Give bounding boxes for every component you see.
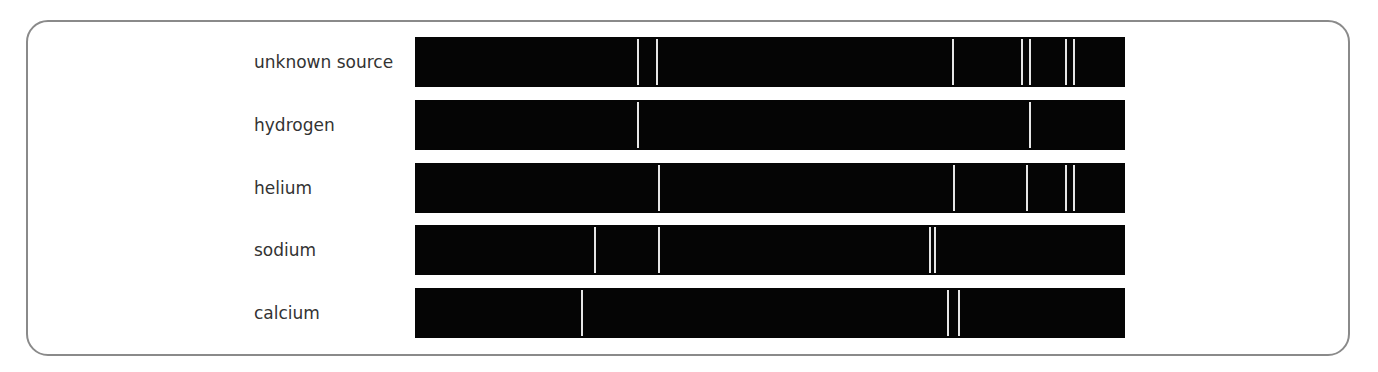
- emission-line: [1029, 102, 1031, 148]
- spectrum-bar: [415, 288, 1125, 338]
- spectrum-row-hydrogen: hydrogen: [0, 100, 1378, 150]
- emission-line: [1026, 165, 1028, 211]
- spectrum-label: unknown source: [254, 37, 393, 87]
- emission-line: [1029, 39, 1031, 85]
- emission-line: [1021, 39, 1023, 85]
- spectrum-label: helium: [254, 163, 312, 213]
- emission-line: [581, 290, 583, 336]
- emission-line: [958, 290, 960, 336]
- spectrum-row-unknown-source: unknown source: [0, 37, 1378, 87]
- emission-line: [1073, 39, 1075, 85]
- spectrum-label: calcium: [254, 288, 320, 338]
- spectrum-bar: [415, 100, 1125, 150]
- emission-line: [1065, 165, 1067, 211]
- emission-line: [952, 39, 954, 85]
- emission-line: [656, 39, 658, 85]
- emission-line: [658, 227, 660, 273]
- emission-line: [637, 102, 639, 148]
- emission-line: [947, 290, 949, 336]
- spectrum-label: hydrogen: [254, 100, 335, 150]
- spectrum-bar: [415, 37, 1125, 87]
- spectrum-bar: [415, 225, 1125, 275]
- emission-line: [1065, 39, 1067, 85]
- spectrum-row-calcium: calcium: [0, 288, 1378, 338]
- spectrum-row-helium: helium: [0, 163, 1378, 213]
- spectrum-bar: [415, 163, 1125, 213]
- emission-line: [658, 165, 660, 211]
- emission-line: [929, 227, 931, 273]
- emission-line: [594, 227, 596, 273]
- emission-line: [953, 165, 955, 211]
- emission-line: [934, 227, 936, 273]
- emission-line: [1073, 165, 1075, 211]
- emission-line: [637, 39, 639, 85]
- spectrum-row-sodium: sodium: [0, 225, 1378, 275]
- spectrum-label: sodium: [254, 225, 316, 275]
